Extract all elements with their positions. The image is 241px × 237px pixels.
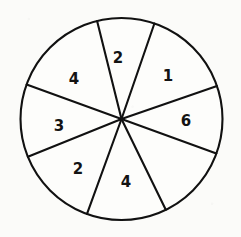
sector-label-lower-left: 2 bbox=[73, 162, 84, 177]
sector-label-left: 3 bbox=[54, 119, 65, 134]
sector-label-bottom: 4 bbox=[121, 175, 132, 190]
sector-label-top: 2 bbox=[113, 51, 124, 66]
sector-label-upper-right: 1 bbox=[163, 69, 174, 84]
spinner-figure: 2 1 6 4 2 3 4 bbox=[0, 0, 241, 237]
spinner-diagram bbox=[0, 0, 241, 237]
sector-label-upper-left: 4 bbox=[69, 72, 80, 87]
sector-label-right: 6 bbox=[181, 114, 192, 129]
